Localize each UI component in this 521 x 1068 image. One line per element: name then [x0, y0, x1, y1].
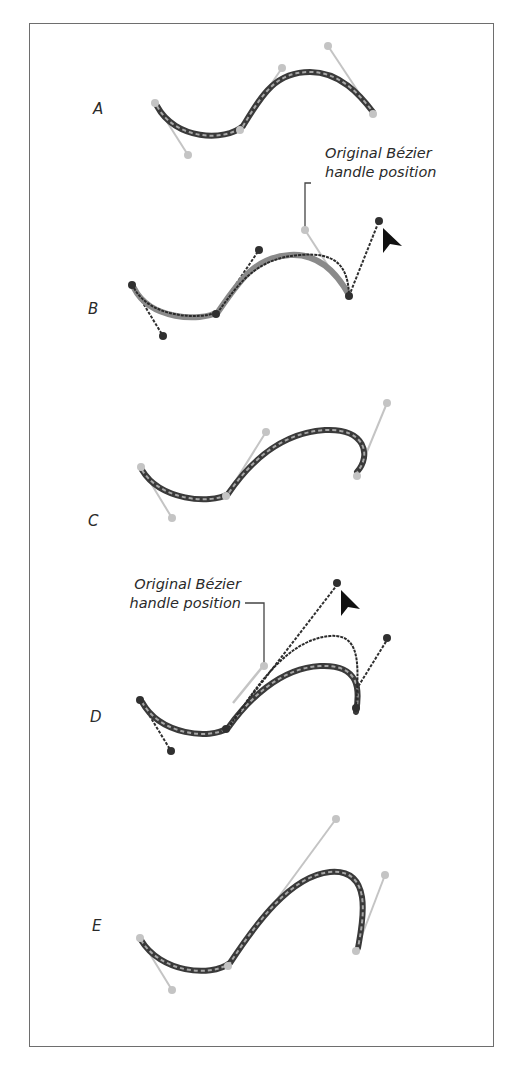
panel-label-e: E: [92, 917, 101, 935]
handle-point[interactable]: [167, 747, 175, 755]
panel-c: [137, 399, 391, 522]
panel-label-c: C: [88, 512, 98, 530]
anchor-point[interactable]: [136, 934, 144, 942]
anchor-point[interactable]: [222, 492, 230, 500]
handle-point[interactable]: [383, 634, 391, 642]
handle-point[interactable]: [255, 246, 263, 254]
handle-point[interactable]: [159, 332, 167, 340]
handle-point[interactable]: [278, 64, 286, 72]
original-bezier-path: [134, 255, 349, 317]
anchor-point[interactable]: [222, 725, 230, 733]
bezier-path: [157, 72, 373, 136]
dragged-handle-point[interactable]: [375, 217, 383, 225]
anchor-point[interactable]: [352, 947, 360, 955]
original-bezier-path: [142, 666, 358, 734]
anchor-point[interactable]: [136, 696, 144, 704]
anchor-point[interactable]: [369, 110, 377, 118]
anchor-point[interactable]: [353, 472, 361, 480]
dragged-handle-line: [349, 221, 379, 296]
panel-label-b: B: [88, 300, 98, 318]
panel-b: [128, 183, 402, 340]
dragged-handle-point[interactable]: [333, 579, 341, 587]
anchor-point[interactable]: [224, 962, 232, 970]
annotation-d-line1: Original Bézier: [105, 575, 241, 594]
panel-label-d: D: [90, 708, 102, 726]
panel-label-a: A: [93, 100, 103, 118]
handle-point[interactable]: [262, 428, 270, 436]
annotation-b-line2: handle position: [325, 163, 436, 182]
original-handle-point: [260, 662, 268, 670]
handle-point[interactable]: [168, 514, 176, 522]
bezier-path-highlight: [142, 430, 364, 499]
panel-e: [136, 815, 389, 994]
panel-a: [151, 42, 377, 159]
bezier-path-highlight: [141, 872, 363, 971]
bezier-figure: [0, 0, 521, 1068]
anchor-point[interactable]: [345, 292, 353, 300]
handle-line: [356, 640, 387, 690]
handle-point[interactable]: [383, 399, 391, 407]
annotation-leader: [305, 183, 311, 230]
annotation-d-line2: handle position: [105, 594, 241, 613]
handle-point[interactable]: [184, 151, 192, 159]
anchor-point[interactable]: [212, 310, 220, 318]
anchor-point[interactable]: [236, 126, 244, 134]
annotation-leader: [245, 603, 264, 665]
anchor-point[interactable]: [137, 463, 145, 471]
annotation-b: Original Bézier handle position: [325, 144, 436, 182]
annotation-d: Original Bézier handle position: [105, 575, 241, 613]
handle-point[interactable]: [332, 815, 340, 823]
cursor-arrow-icon: [341, 590, 360, 616]
handle-point[interactable]: [168, 986, 176, 994]
bezier-path: [141, 872, 363, 971]
handle-point[interactable]: [324, 42, 332, 50]
new-bezier-path: [228, 636, 357, 728]
anchor-point[interactable]: [352, 704, 360, 712]
cursor-arrow-icon: [383, 228, 402, 253]
anchor-point[interactable]: [128, 281, 136, 289]
annotation-b-line1: Original Bézier: [325, 144, 436, 163]
anchor-point[interactable]: [151, 99, 159, 107]
original-handle-point: [301, 226, 309, 234]
new-bezier-path: [134, 255, 349, 316]
handle-point[interactable]: [381, 871, 389, 879]
